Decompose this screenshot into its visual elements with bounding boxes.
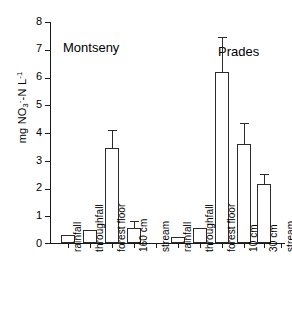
- error-cap-prades-10-cm: [240, 123, 249, 124]
- y-tick-label-6: 6: [28, 71, 42, 82]
- y-tick-label-8: 8: [28, 16, 42, 27]
- y-tick-4: [45, 133, 50, 134]
- y-axis-line: [50, 22, 51, 244]
- error-bar-montseny-forest-floor: [112, 130, 113, 148]
- x-tick-8: [244, 244, 245, 248]
- x-tick-9: [264, 244, 265, 248]
- x-label-prades-10-cm: 10 cm: [248, 224, 259, 252]
- x-tick-6: [200, 244, 201, 248]
- y-tick-label-2: 2: [28, 182, 42, 193]
- error-cap-prades-forest-floor: [218, 37, 227, 38]
- y-tick-6: [45, 78, 50, 79]
- y-tick-0: [45, 243, 50, 244]
- x-label-prades-rainfall: rainfall: [182, 222, 193, 252]
- y-axis-label-exponent: -1: [15, 72, 24, 79]
- error-bar-prades-10-cm: [244, 123, 245, 145]
- x-tick-7: [222, 244, 223, 248]
- y-tick-8: [45, 22, 50, 23]
- x-tick-2: [112, 244, 113, 248]
- x-tick-1: [90, 244, 91, 248]
- x-tick-0: [68, 244, 69, 248]
- y-tick-7: [45, 50, 50, 51]
- error-bar-prades-30-cm: [264, 174, 265, 184]
- y-axis-label-mid: -N L: [16, 79, 28, 101]
- y-tick-3: [45, 161, 50, 162]
- y-tick-label-3: 3: [28, 155, 42, 166]
- y-axis-label-prefix: mg NO: [16, 107, 28, 143]
- x-label-montseny-160-cm: 160 cm: [138, 219, 149, 252]
- y-tick-label-4: 4: [28, 127, 42, 138]
- y-tick-label-0: 0: [28, 238, 42, 249]
- error-cap-montseny-forest-floor: [108, 130, 117, 131]
- x-tick-10: [281, 244, 282, 248]
- y-tick-label-7: 7: [28, 43, 42, 54]
- y-axis-label-charge: -: [15, 100, 24, 103]
- y-tick-2: [45, 189, 50, 190]
- error-bar-prades-forest-floor: [222, 37, 223, 72]
- x-label-montseny-rainfall: rainfall: [72, 222, 83, 252]
- x-label-montseny-forest-floor: forest floor: [116, 204, 127, 252]
- x-tick-3: [134, 244, 135, 248]
- x-label-prades-forest-floor: forest floor: [226, 204, 237, 252]
- y-tick-1: [45, 216, 50, 217]
- x-label-prades-stream: stream: [285, 221, 292, 252]
- y-tick-label-1: 1: [28, 210, 42, 221]
- plot-area: [50, 22, 285, 244]
- x-label-montseny-throughfall: throughfall: [94, 204, 105, 252]
- x-label-prades-throughfall: throughfall: [204, 204, 215, 252]
- error-cap-prades-30-cm: [260, 174, 269, 175]
- x-tick-5: [178, 244, 179, 248]
- x-label-montseny-stream: stream: [160, 221, 171, 252]
- y-tick-label-5: 5: [28, 99, 42, 110]
- y-tick-5: [45, 105, 50, 106]
- x-label-prades-30-cm: 30 cm: [268, 224, 279, 252]
- x-tick-4: [156, 244, 157, 248]
- error-bar-montseny-160-cm: [134, 221, 135, 228]
- chart-figure: mg NO3--N L-1 8 7 6 5 4 3 2 1 0 Montseny…: [0, 0, 292, 334]
